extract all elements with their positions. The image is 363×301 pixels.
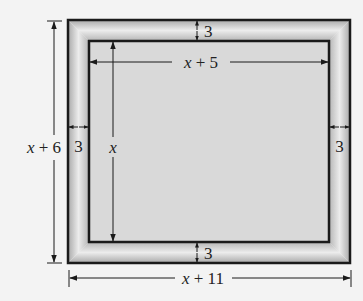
outer-height-dimension: x + 6 xyxy=(26,21,62,263)
outer-height-label: x + 6 xyxy=(26,138,61,157)
right-frame-width-label: 3 xyxy=(335,137,344,156)
bottom-frame-width-label: 3 xyxy=(204,244,213,263)
top-frame-width-label: 3 xyxy=(204,22,213,41)
outer-width-dimension: x + 11 xyxy=(69,269,351,288)
left-frame-width-label: 3 xyxy=(74,137,83,156)
inner-width-label: x + 5 xyxy=(183,53,218,72)
frame-diagram: x + 6 x + 11 x + 5 x 3 3 3 xyxy=(0,0,363,301)
inner-height-label: x xyxy=(108,138,117,157)
outer-width-label: x + 11 xyxy=(181,269,224,288)
